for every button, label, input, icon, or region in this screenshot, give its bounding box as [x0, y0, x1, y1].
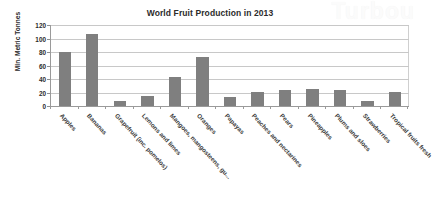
bar-slot: [381, 25, 409, 106]
x-axis-label-slot: Lemons and limes: [133, 110, 161, 205]
x-axis-label-slot: Apples: [50, 110, 78, 205]
x-axis-tick-mark: [133, 106, 134, 109]
x-axis-label-slot: Strawberries: [353, 110, 381, 205]
y-axis-tick-label: 60: [39, 62, 46, 69]
y-axis-ticks: 020406080100120: [20, 21, 48, 109]
bar-slot: [189, 25, 217, 106]
x-axis-label-slot: Pears: [270, 110, 298, 205]
x-axis-tick-mark: [243, 106, 244, 109]
x-axis-label-slot: Plums and sloes: [325, 110, 353, 205]
plot-area: [50, 25, 409, 107]
bar[interactable]: [306, 89, 318, 106]
y-axis-tick-label: 40: [39, 76, 46, 83]
bar-slot: [106, 25, 134, 106]
bar[interactable]: [224, 97, 236, 106]
chart-title: World Fruit Production in 2013: [45, 8, 375, 18]
bar-slot: [244, 25, 272, 106]
bar[interactable]: [169, 77, 181, 106]
x-axis-ticks: [50, 106, 408, 109]
x-axis-tick-mark: [298, 106, 299, 109]
x-axis-label-slot: Pineapples: [298, 110, 326, 205]
bar-slot: [326, 25, 354, 106]
x-axis-tick-mark: [105, 106, 106, 109]
bar[interactable]: [86, 34, 98, 106]
x-axis-tick-mark: [270, 106, 271, 109]
x-axis-tick-slot: [78, 106, 106, 109]
x-axis-tick-mark: [380, 106, 381, 109]
x-axis-tick-slot: [188, 106, 216, 109]
x-axis-tick-mark: [353, 106, 354, 109]
y-axis-tick-label: 120: [35, 22, 46, 29]
x-axis-tick-mark: [50, 106, 51, 109]
x-axis-tick-slot: [105, 106, 133, 109]
x-axis-tick-label: Pears: [279, 112, 296, 129]
x-axis-label-slot: Grapefruit (inc. pomelos): [105, 110, 133, 205]
x-axis-label-slot: Peaches and nectarines: [243, 110, 271, 205]
bar[interactable]: [251, 92, 263, 106]
x-axis-tick-slot: [160, 106, 188, 109]
bar-slot: [271, 25, 299, 106]
bar-slot: [354, 25, 382, 106]
y-axis-tick-label: 20: [39, 89, 46, 96]
x-axis-labels: ApplesBananasGrapefruit (inc. pomelos)Le…: [50, 110, 408, 205]
x-axis-tick-slot: [133, 106, 161, 109]
y-axis-tick-label: 80: [39, 49, 46, 56]
y-axis-tick-label: 100: [35, 35, 46, 42]
y-axis-tick-label: 0: [42, 103, 46, 110]
bar-slot: [216, 25, 244, 106]
x-axis-tick-mark: [215, 106, 216, 109]
x-axis-label-slot: Bananas: [78, 110, 106, 205]
x-axis-tick-slot: [325, 106, 353, 109]
x-axis-tick-mark: [325, 106, 326, 109]
bar-series: [51, 25, 409, 106]
x-axis-label-slot: Tropical fruits fresh: [380, 110, 408, 205]
bar[interactable]: [279, 90, 291, 106]
x-axis-tick-mark: [160, 106, 161, 109]
bar-slot: [134, 25, 162, 106]
x-axis-label-slot: Oranges: [188, 110, 216, 205]
x-axis-tick-slot: [215, 106, 243, 109]
x-axis-tick-slot: [50, 106, 78, 109]
bar[interactable]: [141, 96, 153, 106]
x-axis-tick-slot: [380, 106, 408, 109]
bar-slot: [51, 25, 79, 106]
x-axis-tick-mark: [188, 106, 189, 109]
x-axis-label-slot: Mangoes, mangosteens, gu...: [160, 110, 188, 205]
bar[interactable]: [334, 90, 346, 106]
x-axis-tick-slot: [298, 106, 326, 109]
bar[interactable]: [196, 57, 208, 106]
bar-slot: [299, 25, 327, 106]
x-axis-tick-slot: [243, 106, 271, 109]
x-axis-tick-label: Apples: [59, 112, 78, 132]
bar-slot: [79, 25, 107, 106]
bar-slot: [161, 25, 189, 106]
x-axis-tick-slot: [353, 106, 381, 109]
x-axis-tick-label: Tropical fruits fresh: [389, 112, 434, 159]
bar[interactable]: [389, 92, 401, 106]
bar[interactable]: [59, 52, 71, 106]
x-axis-tick-mark: [78, 106, 79, 109]
x-axis-tick-slot: [270, 106, 298, 109]
x-axis-tick-end: [407, 106, 408, 109]
x-axis-label-slot: Papayas: [215, 110, 243, 205]
